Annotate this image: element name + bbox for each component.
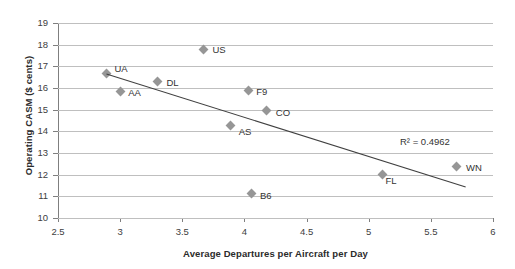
data-point-label-aa: AA <box>128 88 141 98</box>
y-tick-label: 13 <box>26 148 48 158</box>
y-tick-label: 14 <box>26 126 48 136</box>
x-tick-label: 2.5 <box>38 226 78 237</box>
x-tick-label: 6 <box>473 226 513 237</box>
x-tick-label: 5.5 <box>411 226 451 237</box>
x-tick-label: 3 <box>100 226 140 237</box>
y-tick-label: 19 <box>26 18 48 28</box>
data-point-ua[interactable] <box>102 69 112 79</box>
gridline <box>58 218 493 219</box>
x-tick-label: 4 <box>224 226 264 237</box>
y-tick-label: 15 <box>26 105 48 115</box>
gridline <box>58 153 493 154</box>
gridline <box>58 175 493 176</box>
plot-area: UAAADLUSF9ASCOB6FLWN <box>58 23 493 218</box>
data-point-label-ua: UA <box>114 64 127 74</box>
gridline <box>58 23 493 24</box>
data-point-label-b6: B6 <box>260 191 272 201</box>
gridline <box>58 131 493 132</box>
x-tick-label: 3.5 <box>162 226 202 237</box>
y-tick-label: 18 <box>26 40 48 50</box>
data-point-label-as: AS <box>239 127 252 137</box>
y-tick-label: 17 <box>26 61 48 71</box>
x-tick-label: 5 <box>349 226 389 237</box>
data-point-label-co: CO <box>276 108 290 118</box>
gridline <box>58 196 493 197</box>
x-tick-mark <box>493 218 494 222</box>
data-point-dl[interactable] <box>152 77 162 87</box>
data-point-label-dl: DL <box>166 78 178 88</box>
y-tick-label: 12 <box>26 170 48 180</box>
data-point-label-us: US <box>212 45 225 55</box>
x-tick-label: 4.5 <box>287 226 327 237</box>
x-axis-title: Average Departures per Aircraft per Day <box>58 248 493 259</box>
data-point-label-wn: WN <box>466 163 482 173</box>
data-point-label-f9: F9 <box>256 87 267 97</box>
r-squared-annotation: R² = 0.4962 <box>400 136 450 147</box>
y-tick-label: 10 <box>26 213 48 223</box>
data-point-wn[interactable] <box>452 161 462 171</box>
data-point-as[interactable] <box>226 121 236 131</box>
data-point-f9[interactable] <box>243 85 253 95</box>
scatter-chart: Operating CASM ($ cents) Average Departu… <box>0 0 515 269</box>
y-tick-label: 16 <box>26 83 48 93</box>
data-point-label-fl: FL <box>385 176 396 186</box>
gridline <box>58 45 493 46</box>
y-tick-label: 11 <box>26 191 48 201</box>
data-point-co[interactable] <box>262 106 272 116</box>
